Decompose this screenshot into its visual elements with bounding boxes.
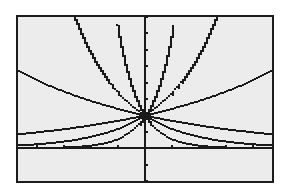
curve-segment — [176, 106, 178, 108]
curve-segment — [178, 84, 180, 89]
curve-segment — [68, 128, 70, 130]
curve-segment — [240, 142, 242, 144]
curve-segment — [154, 107, 156, 109]
curve-segment — [126, 64, 128, 73]
curve-segment — [266, 144, 268, 146]
curve-segment — [50, 147, 52, 149]
curve-segment — [40, 143, 42, 145]
curve-segment — [208, 97, 210, 99]
curve-segment — [104, 73, 106, 78]
curve-segment — [154, 120, 156, 122]
curve-segment — [258, 76, 260, 78]
curve-segment — [204, 137, 206, 139]
curve-segment — [174, 139, 176, 141]
curve-segment — [170, 93, 172, 95]
curve-segment — [206, 97, 208, 99]
curve-segment — [244, 83, 246, 85]
curve-segment — [166, 97, 168, 99]
x-axis-tick — [171, 145, 173, 148]
curve-segment — [122, 126, 124, 128]
curve-segment — [110, 121, 112, 123]
curve-segment — [66, 128, 68, 130]
curve-segment — [200, 125, 202, 127]
curve-segment — [84, 37, 86, 44]
curve-segment — [122, 97, 124, 99]
curve-segment — [156, 129, 158, 131]
curve-segment — [176, 121, 178, 123]
curve-segment — [174, 120, 176, 122]
curve-segment — [196, 101, 198, 103]
curve-segment — [192, 134, 194, 136]
curve-segment — [100, 67, 102, 72]
curve-segment — [120, 109, 122, 111]
curve-segment — [238, 130, 240, 132]
curve-segment — [20, 144, 22, 146]
curve-segment — [178, 106, 180, 108]
curve-segment — [190, 67, 192, 72]
curve-segment — [164, 99, 166, 101]
curve-segment — [242, 130, 244, 132]
curve-segment — [96, 61, 98, 66]
curve-segment — [134, 120, 136, 122]
curve-segment — [104, 142, 106, 144]
curve-segment — [254, 143, 256, 145]
curve-segment — [26, 132, 28, 134]
y-axis-tick — [145, 17, 148, 18]
curve-segment — [78, 138, 80, 140]
curve-segment — [218, 127, 220, 129]
curve-segment — [164, 125, 166, 127]
curve-segment — [150, 121, 152, 126]
curve-segment — [130, 117, 132, 119]
curve-segment — [168, 119, 170, 121]
curve-segment — [214, 146, 216, 148]
curve-segment — [30, 147, 32, 149]
curve-segment — [172, 120, 174, 122]
curve-segment — [230, 147, 232, 149]
curve-segment — [26, 147, 28, 149]
curve-segment — [22, 133, 24, 135]
axes — [18, 17, 272, 181]
curve-segment — [110, 106, 112, 108]
curve-segment — [106, 142, 108, 144]
curve-segment — [86, 145, 88, 147]
curve-segment — [236, 142, 238, 144]
curve-segment — [168, 46, 170, 57]
curve-segment — [218, 140, 220, 142]
curve-segment — [242, 147, 244, 149]
curve-segment — [108, 131, 110, 133]
curve-segment — [206, 137, 208, 139]
curve-segment — [120, 137, 122, 139]
curve-segment — [136, 125, 138, 127]
curve-segment — [198, 136, 200, 138]
curve-segment — [176, 86, 178, 88]
curve-segment — [244, 130, 246, 132]
curve-segment — [36, 147, 38, 149]
curve-segment — [226, 90, 228, 92]
curve-segment — [60, 89, 62, 91]
curve-segment — [94, 144, 96, 146]
curve-segment — [256, 144, 258, 146]
curve-segment — [90, 100, 92, 102]
curve-segment — [148, 118, 150, 123]
curve-segment — [106, 76, 108, 81]
curve-segment — [36, 131, 38, 133]
curve-segment — [28, 132, 30, 134]
curve-segment — [262, 132, 264, 134]
curve-segment — [210, 138, 212, 140]
curve-segment — [164, 110, 166, 112]
intersection-point-marker — [139, 111, 151, 119]
curve-segment — [22, 147, 24, 149]
curve-segment — [132, 121, 134, 123]
curve-segment — [156, 112, 158, 114]
curve-segment — [76, 139, 78, 141]
curve-segment — [252, 131, 254, 133]
curve-segment — [264, 144, 266, 146]
curve-segment — [246, 131, 248, 133]
curve-segment — [206, 145, 208, 147]
curve-segment — [92, 101, 94, 103]
curve-segment — [114, 120, 116, 122]
curve-segment — [170, 138, 172, 140]
y-axis-tick — [145, 82, 148, 84]
curve-segment — [160, 123, 162, 125]
curve-segment — [130, 104, 132, 106]
